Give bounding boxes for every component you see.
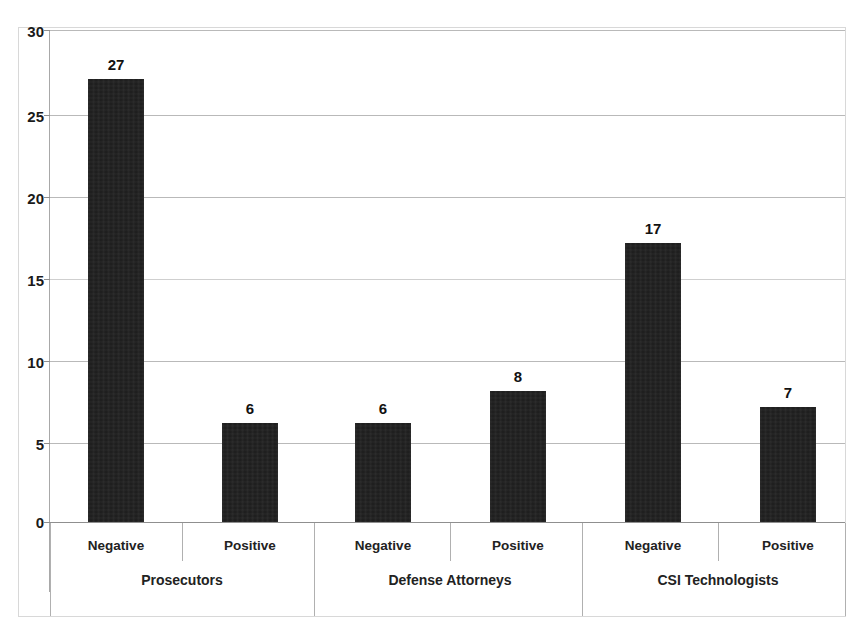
x-category-label-csi-technologists-positive: Positive xyxy=(728,539,848,553)
gridline-30 xyxy=(50,30,845,31)
bar-value-csi-technologists-negative: 17 xyxy=(618,221,688,236)
y-tick-label-10: 10 xyxy=(4,355,44,370)
gridline-20 xyxy=(50,197,845,198)
bar-defense-attorneys-negative xyxy=(355,423,411,522)
x-group-label-csi-technologists: CSI Technologists xyxy=(618,573,818,587)
y-tick-label-30: 30 xyxy=(4,24,44,39)
bar-prosecutors-negative xyxy=(88,79,144,522)
axis-separator-group-2-3 xyxy=(582,523,583,616)
y-tick-label-15: 15 xyxy=(4,273,44,288)
bar-value-csi-technologists-positive: 7 xyxy=(753,385,823,400)
x-category-label-prosecutors-positive: Positive xyxy=(190,539,310,553)
gridline-15 xyxy=(50,279,845,280)
gridline-0 xyxy=(50,522,845,523)
gridline-10 xyxy=(50,361,845,362)
axis-separator-defense-attorneys-inner xyxy=(450,523,451,561)
axis-separator-prosecutors-inner xyxy=(182,523,183,561)
gridline-5 xyxy=(50,443,845,444)
y-tick-label-20: 20 xyxy=(4,191,44,206)
x-category-label-defense-attorneys-positive: Positive xyxy=(458,539,578,553)
plot-area xyxy=(50,30,845,522)
bar-value-prosecutors-negative: 27 xyxy=(81,57,151,72)
axis-separator-left-end xyxy=(50,523,51,616)
axis-separator-right-end xyxy=(845,523,846,616)
y-tick-label-25: 25 xyxy=(4,109,44,124)
bar-value-defense-attorneys-positive: 8 xyxy=(483,369,553,384)
axis-separator-csi-technologists-inner xyxy=(718,523,719,561)
x-category-label-defense-attorneys-negative: Negative xyxy=(323,539,443,553)
axis-separator-group-1-2 xyxy=(314,523,315,616)
bar-value-prosecutors-positive: 6 xyxy=(215,401,285,416)
y-tick-label-0: 0 xyxy=(4,515,44,530)
bar-value-defense-attorneys-negative: 6 xyxy=(348,401,418,416)
x-category-label-prosecutors-negative: Negative xyxy=(56,539,176,553)
x-group-label-prosecutors: Prosecutors xyxy=(82,573,282,587)
bar-prosecutors-positive xyxy=(222,423,278,522)
gridline-25 xyxy=(50,115,845,116)
x-category-label-csi-technologists-negative: Negative xyxy=(593,539,713,553)
x-group-label-defense-attorneys: Defense Attorneys xyxy=(350,573,550,587)
bar-csi-technologists-positive xyxy=(760,407,816,522)
bar-defense-attorneys-positive xyxy=(490,391,546,522)
bar-csi-technologists-negative xyxy=(625,243,681,522)
y-tick-label-5: 5 xyxy=(4,437,44,452)
